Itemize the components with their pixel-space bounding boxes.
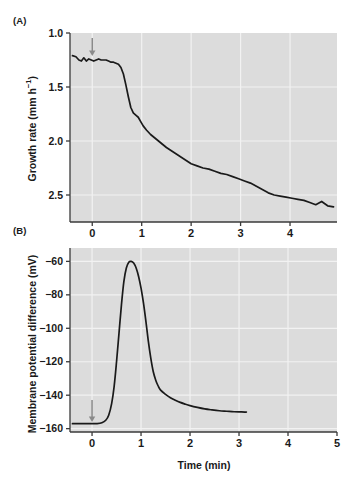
- y-tick-label: 2.5: [48, 189, 63, 201]
- x-tick-label: 1: [138, 437, 144, 449]
- y-tick-label: −60: [45, 255, 63, 267]
- x-tick-label: 1: [139, 227, 145, 239]
- x-tick-label: 3: [238, 227, 244, 239]
- x-tick-label: 2: [187, 437, 193, 449]
- x-tick-label: 2: [188, 227, 194, 239]
- y-tick-label: −160: [39, 422, 63, 434]
- x-tick-label: 4: [287, 227, 294, 239]
- y-tick-label: −120: [39, 355, 63, 367]
- y-tick-label: 1.5: [48, 81, 63, 93]
- x-tick-label: 3: [236, 437, 242, 449]
- y-tick-label: 2.0: [48, 135, 63, 147]
- panel-b-plot: −60−80−100−120−140−160012345: [39, 248, 340, 449]
- plot-canvas: 2.52.01.51.001234−60−80−100−120−140−1600…: [0, 0, 356, 479]
- y-tick-label: −80: [45, 288, 63, 300]
- panel-a-plot: 2.52.01.51.001234: [48, 27, 337, 239]
- panel-b-plot-background: [70, 248, 337, 432]
- x-tick-label: 0: [89, 227, 95, 239]
- y-tick-label: −140: [39, 389, 63, 401]
- figure-container: (A) (B) Growth rate (mm h−1) Membrane po…: [0, 0, 356, 479]
- y-tick-label: −100: [39, 322, 63, 334]
- y-tick-label: 1.0: [48, 27, 63, 39]
- x-tick-label: 5: [334, 437, 340, 449]
- x-tick-label: 4: [285, 437, 292, 449]
- x-tick-label: 0: [89, 437, 95, 449]
